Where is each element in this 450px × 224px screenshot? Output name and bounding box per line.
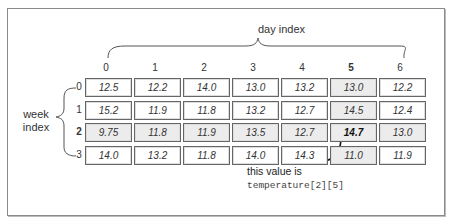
- col-index-3: 3: [233, 62, 273, 73]
- cell-0-5: 13.0: [330, 78, 377, 97]
- cell-3-4: 14.3: [281, 146, 328, 165]
- cell-3-1: 13.2: [134, 146, 181, 165]
- week-index-label-line2: index: [16, 121, 56, 134]
- cell-3-3: 14.0: [232, 146, 279, 165]
- cell-3-5: 11.0: [330, 146, 377, 165]
- col-index-2: 2: [184, 62, 224, 73]
- cell-0-0: 12.5: [85, 78, 132, 97]
- cell-1-6: 12.4: [379, 101, 426, 120]
- cell-1-4: 12.7: [281, 101, 328, 120]
- day-index-brace: [108, 38, 405, 58]
- cell-1-2: 11.8: [183, 101, 230, 120]
- row-index-1: 1: [74, 104, 84, 115]
- annotation-text: this value is: [247, 165, 302, 177]
- row-index-3: 3: [74, 149, 84, 160]
- target-cell-2-5: 14.7: [330, 123, 377, 142]
- cell-0-1: 12.2: [134, 78, 181, 97]
- row-index-0: 0: [74, 81, 84, 92]
- cell-0-3: 13.0: [232, 78, 279, 97]
- cell-2-3: 13.5: [232, 123, 279, 142]
- cell-1-1: 11.9: [134, 101, 181, 120]
- row-index-2: 2: [74, 126, 84, 137]
- week-index-label: week index: [16, 108, 56, 134]
- cell-2-2: 11.9: [183, 123, 230, 142]
- cell-0-6: 12.2: [379, 78, 426, 97]
- cell-0-4: 13.2: [281, 78, 328, 97]
- cell-2-4: 12.7: [281, 123, 328, 142]
- cell-3-2: 11.8: [183, 146, 230, 165]
- cell-3-0: 14.0: [85, 146, 132, 165]
- cell-1-5: 14.5: [330, 101, 377, 120]
- col-index-6: 6: [380, 62, 420, 73]
- cell-0-2: 14.0: [183, 78, 230, 97]
- cell-3-6: 11.9: [379, 146, 426, 165]
- cell-2-0: 9.75: [85, 123, 132, 142]
- day-index-label: day index: [258, 23, 305, 35]
- col-index-1: 1: [135, 62, 175, 73]
- col-index-4: 4: [282, 62, 322, 73]
- annotation-code: temperature[2][5]: [247, 180, 344, 191]
- week-index-label-line1: week: [16, 108, 56, 121]
- cell-2-1: 11.8: [134, 123, 181, 142]
- cell-1-3: 13.2: [232, 101, 279, 120]
- col-index-0: 0: [86, 62, 126, 73]
- col-index-5: 5: [331, 62, 371, 73]
- cell-2-6: 13.0: [379, 123, 426, 142]
- week-index-brace: [56, 88, 76, 156]
- cell-1-0: 15.2: [85, 101, 132, 120]
